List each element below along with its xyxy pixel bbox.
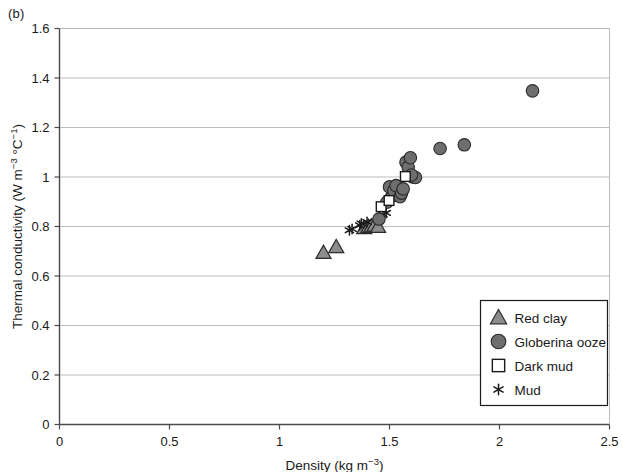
data-point-triangle [329,239,344,252]
x-tick-label: 1 [276,434,283,449]
data-point-circle [404,151,416,163]
legend-label: Mud [515,383,541,398]
x-axis-title: Density (kg m−3) [286,456,384,472]
series-globerina-ooze [373,85,539,226]
y-axis-title-text: Thermal conductivity (W m−3 °C−1) [8,124,25,329]
y-tick-label: 1.2 [31,120,49,135]
scatter-plot: 00.511.522.5 00.20.40.60.811.21.41.6 Den… [0,0,622,472]
y-tick-label: 1.6 [31,21,49,36]
y-tick-label: 1.4 [31,71,49,86]
legend: Red clayGloberina oozeDark mudMud [481,301,608,406]
x-axis-title-text: Density (kg m−3) [286,456,384,472]
data-point-square [401,172,411,182]
y-tick-label: 0.2 [31,368,49,383]
y-axis-title: Thermal conductivity (W m−3 °C−1) [8,124,25,329]
x-tick-label: 1.5 [380,434,398,449]
data-points [316,85,539,259]
legend-label: Red clay [515,311,568,326]
y-tick-label: 1 [42,170,49,185]
data-point-circle [526,85,538,97]
y-tick-label: 0.8 [31,219,49,234]
y-tick-label: 0.4 [31,318,49,333]
legend-marker-circle [491,334,506,349]
data-point-circle [397,183,409,195]
figure-panel-b: (b) 00.511.522.5 00.20.40.60.811.21.41.6… [0,0,622,472]
data-point-square [384,196,394,206]
legend-label: Dark mud [515,359,574,374]
legend-marker-square [492,359,504,371]
y-axis-ticks: 00.20.40.60.811.21.41.6 [31,21,59,432]
legend-label: Globerina ooze [515,335,607,350]
y-tick-label: 0 [42,417,49,432]
data-point-circle [458,139,470,151]
x-tick-label: 0.5 [160,434,178,449]
data-point-circle [373,213,385,225]
x-tick-label: 2 [496,434,503,449]
x-tick-label: 0 [56,434,63,449]
y-tick-label: 0.6 [31,269,49,284]
x-tick-label: 2.5 [600,434,618,449]
data-point-circle [434,142,446,154]
x-axis-ticks: 00.511.522.5 [56,425,619,449]
